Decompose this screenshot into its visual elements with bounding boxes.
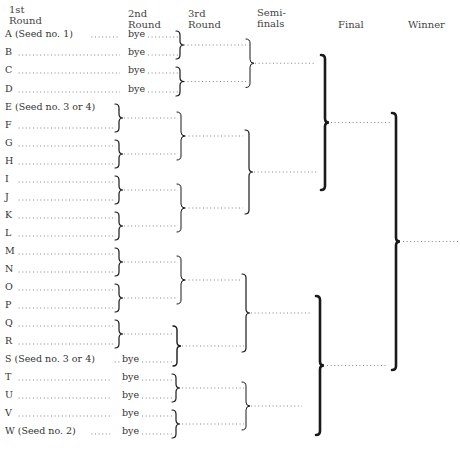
brace-round1-pair [115,320,123,348]
brace-final-2 [316,296,324,435]
brace-round1-pair [115,284,123,312]
brace-semi-2 [245,130,253,214]
brace-e-h [177,112,185,160]
brace-m-p [177,256,185,304]
brace-round1-pair [115,140,123,168]
bracket-lines [0,0,460,450]
brace-qr-s [173,326,181,366]
brace-round1-pair [115,248,123,276]
brace-final-1 [321,55,329,190]
brace-round1-pair [115,212,123,240]
brace-i-l [177,184,185,232]
brace-round1-pair [115,176,123,204]
brace-semi-1 [246,39,254,88]
brace-v-w [172,410,180,438]
brace-semi-4 [242,382,250,430]
brace-round1-pair [115,104,123,132]
brace-semi-3 [242,274,250,352]
brace-t-u [172,374,180,402]
brace-winner [392,113,400,370]
